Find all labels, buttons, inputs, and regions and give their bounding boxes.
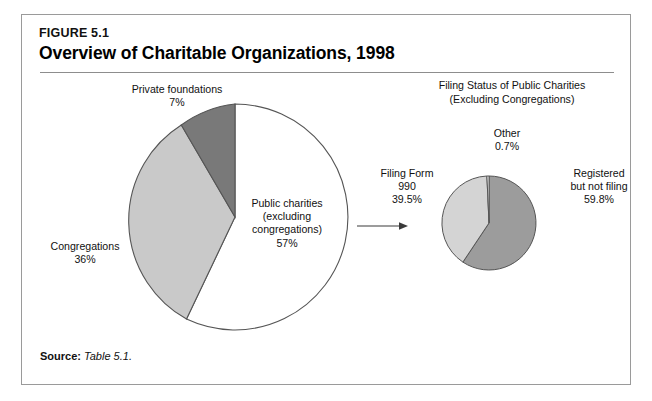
label-congregations-value: 36% <box>74 253 95 265</box>
charts-plot-area: Private foundations 7% Congregations 36%… <box>22 15 630 384</box>
label-filing-form-line2: 990 <box>398 180 416 192</box>
label-public-charities-line2: (excluding <box>263 210 311 222</box>
label-other: Other 0.7% <box>447 127 567 153</box>
flow-arrow-icon <box>357 222 408 230</box>
label-registered-line1: Registered <box>573 167 624 179</box>
label-other-value: 0.7% <box>495 140 519 152</box>
label-public-charities-value: 57% <box>276 237 297 249</box>
label-other-text: Other <box>494 127 521 139</box>
figure-frame: FIGURE 5.1 Overview of Charitable Organi… <box>21 14 631 385</box>
label-congregations: Congregations 36% <box>20 240 150 266</box>
label-public-charities-line3: congregations) <box>252 223 322 235</box>
label-registered-not-filing: Registered but not filing 59.8% <box>534 167 652 207</box>
label-filing-form-value: 39.5% <box>392 193 422 205</box>
label-registered-value: 59.8% <box>584 193 614 205</box>
label-public-charities-line1: Public charities <box>251 197 322 209</box>
source-label: Source: <box>40 350 81 362</box>
label-private-foundations-text: Private foundations <box>132 83 223 95</box>
label-private-foundations: Private foundations 7% <box>107 83 247 109</box>
label-filing-form-990: Filing Form 990 39.5% <box>352 167 462 207</box>
right-chart-title-line2: (Excluding Congregations) <box>450 93 575 105</box>
source-line: Source: Table 5.1. <box>40 349 132 363</box>
label-registered-line2: but not filing <box>570 180 627 192</box>
label-filing-form-line1: Filing Form <box>381 167 434 179</box>
label-congregations-text: Congregations <box>51 240 120 252</box>
source-value: Table 5.1. <box>84 350 132 362</box>
right-chart-title-line1: Filing Status of Public Charities <box>439 79 586 91</box>
label-private-foundations-value: 7% <box>169 96 184 108</box>
right-chart-title: Filing Status of Public Charities (Exclu… <box>392 79 632 106</box>
label-public-charities: Public charities (excluding congregation… <box>222 197 352 250</box>
